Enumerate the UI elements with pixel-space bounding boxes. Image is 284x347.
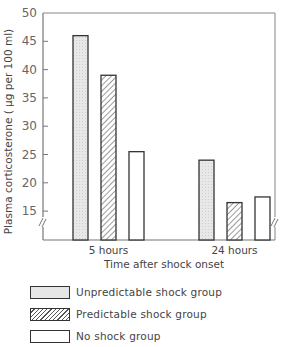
legend-label: Predictable shock group <box>76 308 207 320</box>
legend-swatch-unpredictable <box>30 286 70 299</box>
y-tick-label: 15 <box>22 204 37 218</box>
legend-item-predictable: Predictable shock group <box>30 304 222 324</box>
y-tick-label: 50 <box>22 6 37 20</box>
bar-no-shock-5h <box>129 152 144 240</box>
y-tick-label: 35 <box>22 91 37 105</box>
legend-item-unpredictable: Unpredictable shock group <box>30 282 222 302</box>
legend-item-no-shock: No shock group <box>30 326 222 346</box>
bar-unpredictable-24h <box>199 160 214 240</box>
y-tick-label: 25 <box>22 148 37 162</box>
y-tick-label: 30 <box>22 119 37 133</box>
y-tick-label: 40 <box>22 63 37 77</box>
legend: Unpredictable shock group Predictable sh… <box>30 282 222 347</box>
x-axis-title: Time after shock onset <box>103 258 224 270</box>
legend-label: Unpredictable shock group <box>76 286 222 298</box>
legend-label: No shock group <box>76 330 161 342</box>
bar-chart: 1520253035404550Plasma corticosterone ( … <box>0 0 284 280</box>
bar-no-shock-24h <box>255 197 270 240</box>
y-axis-title: Plasma corticosterone ( µg per 100 ml) <box>2 29 14 234</box>
legend-swatch-no-shock <box>30 330 70 343</box>
x-category-label: 24 hours <box>211 244 257 256</box>
bars <box>73 36 270 240</box>
bar-unpredictable-5h <box>73 36 88 240</box>
y-tick-label: 45 <box>22 34 37 48</box>
bar-predictable-5h <box>101 75 116 240</box>
y-tick-label: 20 <box>22 176 37 190</box>
x-category-label: 5 hours <box>89 244 129 256</box>
legend-swatch-predictable <box>30 308 70 321</box>
bar-predictable-24h <box>227 203 242 240</box>
